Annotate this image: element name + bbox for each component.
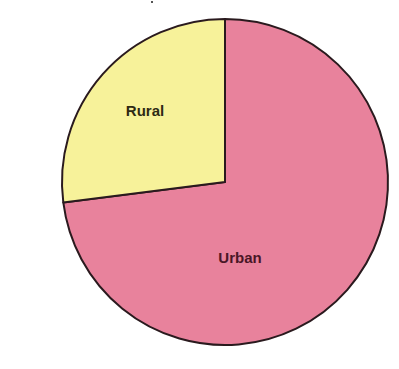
rural-label: Rural (126, 102, 164, 119)
urban-label: Urban (218, 249, 261, 266)
pie-chart: Rural Urban (0, 0, 399, 369)
